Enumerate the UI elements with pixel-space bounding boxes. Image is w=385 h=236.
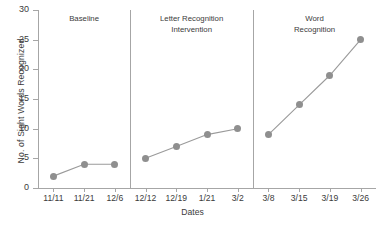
x-axis-tick (176, 188, 177, 192)
phase-series-line (146, 129, 238, 159)
y-axis-tick-label: 10 (0, 123, 29, 133)
y-axis-tick (33, 158, 38, 159)
data-point-marker (204, 131, 211, 138)
y-axis-tick (33, 69, 38, 70)
x-axis-tick-label: 3/26 (336, 193, 385, 203)
x-axis-tick (238, 188, 239, 192)
phase-label: Letter Recognition Intervention (130, 14, 253, 35)
y-axis-tick (33, 10, 38, 11)
data-point-marker (326, 72, 333, 79)
x-axis-title: Dates (0, 207, 385, 217)
y-axis-tick-label: 15 (0, 93, 29, 103)
data-point-marker (173, 143, 180, 150)
phase-label: Baseline (38, 14, 130, 25)
x-axis-tick (299, 188, 300, 192)
y-axis-tick (33, 99, 38, 100)
phase-divider-line (253, 10, 254, 188)
x-axis-tick (115, 188, 116, 192)
data-point-marker (142, 155, 149, 162)
data-point-marker (81, 161, 88, 168)
x-axis-tick (268, 188, 269, 192)
y-axis-tick-label: 5 (0, 152, 29, 162)
x-axis-tick (361, 188, 362, 192)
y-axis-tick-label: 25 (0, 34, 29, 44)
phase-series-line (268, 40, 360, 135)
x-axis-tick (84, 188, 85, 192)
data-point-marker (111, 161, 118, 168)
x-axis-tick (146, 188, 147, 192)
y-axis-tick (33, 40, 38, 41)
data-point-marker (296, 101, 303, 108)
x-axis-tick (207, 188, 208, 192)
data-point-marker (234, 125, 241, 132)
y-axis-tick-label: 0 (0, 182, 29, 192)
y-axis-tick (33, 129, 38, 130)
data-point-marker (265, 131, 272, 138)
single-subject-line-chart: No. of Sight Words Recognized Dates 0510… (0, 0, 385, 236)
y-axis-tick-label: 20 (0, 63, 29, 73)
y-axis-tick (33, 188, 38, 189)
y-axis-tick-label: 30 (0, 4, 29, 14)
data-point-marker (50, 173, 57, 180)
y-axis-line (38, 10, 39, 189)
x-axis-tick (53, 188, 54, 192)
x-axis-tick (330, 188, 331, 192)
phase-label: Word Recognition (253, 14, 376, 35)
data-point-marker (357, 36, 364, 43)
phase-divider-line (130, 10, 131, 188)
